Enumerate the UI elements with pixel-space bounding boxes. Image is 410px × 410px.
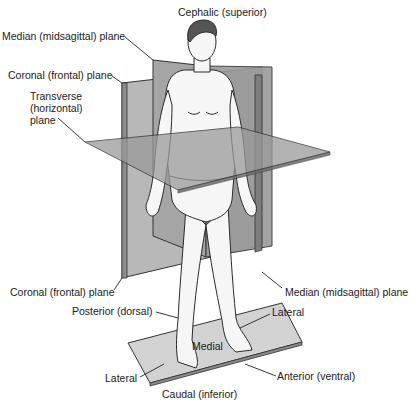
label-cephalic-superior: Cephalic (superior)	[178, 6, 267, 18]
label-transverse-line2: (horizontal)	[30, 102, 83, 114]
label-medial: Medial	[192, 340, 223, 352]
label-caudal-inferior: Caudal (inferior)	[162, 388, 237, 400]
label-median-plane-bottom: Median (midsagittal) plane	[285, 286, 408, 298]
label-median-plane-top: Median (midsagittal) plane	[2, 30, 125, 42]
label-transverse-line1: Transverse	[30, 90, 82, 102]
label-posterior-dorsal: Posterior (dorsal)	[72, 305, 153, 317]
label-coronal-plane-bottom: Coronal (frontal) plane	[10, 286, 114, 298]
label-anterior-ventral: Anterior (ventral)	[277, 370, 355, 382]
label-coronal-plane-top: Coronal (frontal) plane	[8, 69, 112, 81]
label-transverse-line3: plane	[30, 114, 56, 126]
label-lateral-left: Lateral	[105, 372, 137, 384]
anatomical-planes-diagram: Cephalic (superior) Median (midsagittal)…	[0, 0, 410, 410]
label-lateral-right: Lateral	[272, 306, 304, 318]
